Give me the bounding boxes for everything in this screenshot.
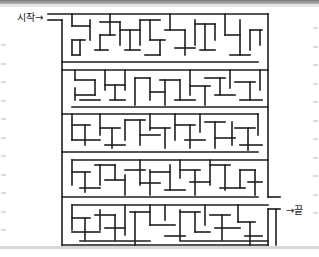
maze-grid [0, 0, 319, 257]
